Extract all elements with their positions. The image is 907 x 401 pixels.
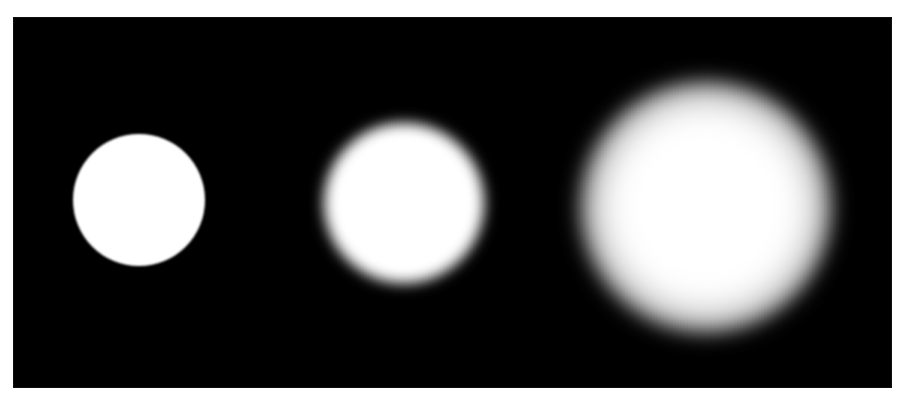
figure-description: Three white circular discs on a black ba… <box>0 0 1 1</box>
blob-disc-sharp <box>73 134 205 266</box>
image-panel <box>13 17 892 388</box>
blob-disc-medium <box>324 123 484 283</box>
blob-disc-heavy <box>580 81 832 333</box>
figure-root: Three white circular discs on a black ba… <box>0 0 907 401</box>
